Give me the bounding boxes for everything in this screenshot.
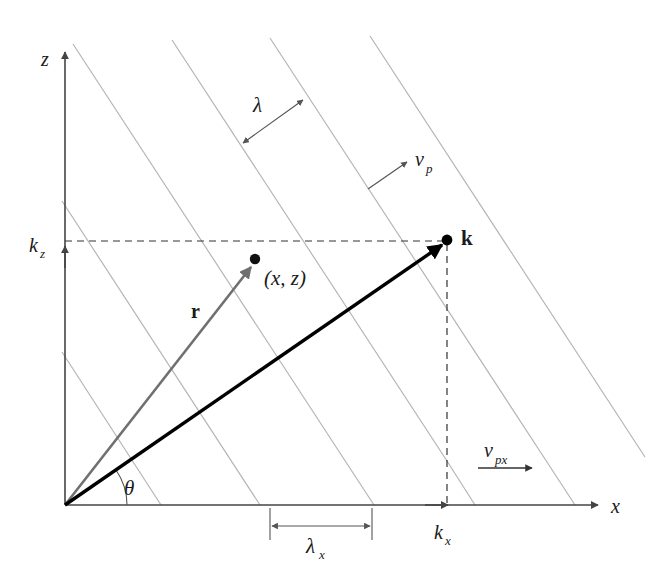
vpx-label-main: v — [484, 439, 493, 461]
diagram-canvas: z x k z k x k r (x, z) θ λ λ x v p v px — [0, 0, 651, 582]
vp-label-main: v — [415, 148, 424, 170]
x-axis-label: x — [610, 495, 620, 517]
k-vector-label: k — [461, 226, 473, 250]
diagram-background — [0, 0, 651, 582]
theta-label: θ — [124, 476, 134, 500]
vp-label-sub: p — [425, 161, 433, 176]
kz-label-sub: z — [39, 246, 45, 261]
vpx-label-sub: px — [494, 452, 508, 467]
plane-wave-diagram: z x k z k x k r (x, z) θ λ λ x v p v px — [0, 0, 651, 582]
lambda-x-label-main: λ — [305, 534, 315, 558]
lambda-x-label-sub: x — [318, 547, 325, 562]
r-vector-label: r — [191, 300, 200, 322]
point-xz-marker — [250, 254, 260, 264]
kx-label-sub: x — [444, 533, 451, 548]
z-axis-label: z — [40, 48, 49, 70]
k-point-marker — [442, 235, 453, 246]
point-xz-label: (x, z) — [264, 266, 306, 290]
lambda-label: λ — [252, 93, 262, 117]
kx-label-main: k — [434, 521, 444, 543]
kz-label-main: k — [29, 234, 39, 256]
